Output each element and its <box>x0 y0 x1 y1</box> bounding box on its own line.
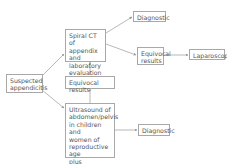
node-equivocal-mid: Equivocal results <box>65 76 115 89</box>
node-diagnostic-top: Diagnostic <box>133 11 166 22</box>
node-laparoscopy: Laparoscopy <box>189 49 225 60</box>
node-equivocal-right: Equivocal results <box>137 47 164 65</box>
node-diagnostic-bottom: Diagnostic <box>138 124 170 136</box>
node-ultrasound: Ultrasound of abdomen/pelvis in children… <box>65 103 115 158</box>
node-spiral-ct: Spiral CT of appendix and laboratory eva… <box>65 29 106 62</box>
node-suspected-appendicitis: Suspected appendicitis <box>6 74 43 93</box>
